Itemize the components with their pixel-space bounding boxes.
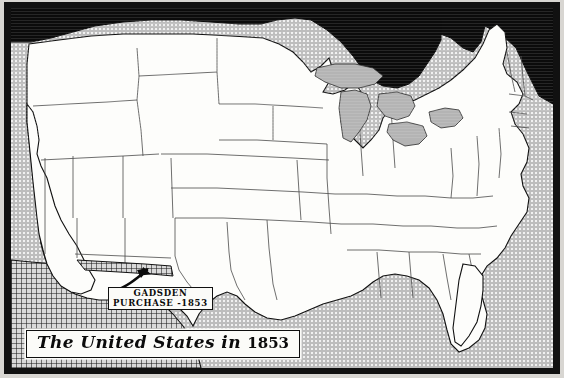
- gadsden-label-line1: GADSDEN: [113, 288, 208, 298]
- map-title-year: 1853: [247, 334, 289, 352]
- gadsden-label-line2: PURCHASE -1853: [113, 298, 208, 308]
- map-figure: GADSDEN PURCHASE -1853 The United States…: [0, 0, 564, 378]
- map-title: The United States in 1853: [37, 332, 289, 352]
- map-plate: GADSDEN PURCHASE -1853 The United States…: [11, 8, 553, 368]
- gadsden-purchase-label: GADSDEN PURCHASE -1853: [108, 287, 213, 310]
- map-geometry: [11, 8, 553, 368]
- map-title-main: The United States in: [37, 332, 241, 352]
- map-title-cartouche: The United States in 1853: [26, 330, 300, 358]
